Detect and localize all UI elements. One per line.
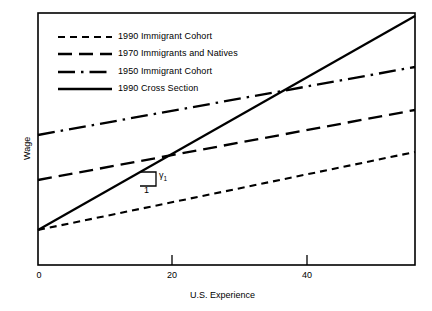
series-line-1990-immigrant-cohort — [38, 152, 415, 230]
slope-triangle-icon — [140, 172, 156, 186]
xtick-label-40: 40 — [299, 270, 315, 280]
slope-rise-label: γ1 — [159, 170, 167, 182]
series-line-1950-immigrant-cohort — [38, 67, 415, 135]
xtick-label-0: 0 — [33, 270, 45, 280]
series-line-1970-immigrants-and-natives — [38, 110, 415, 180]
legend-item-1970-immigrants-and-natives: 1970 Immigrants and Natives — [118, 48, 238, 58]
chart-figure: 1990 Immigrant Cohort 1970 Immigrants an… — [0, 0, 432, 311]
y-axis-title: Wage — [22, 137, 32, 160]
x-axis-title: U.S. Experience — [190, 290, 255, 300]
legend-item-1990-cross-section: 1990 Cross Section — [118, 83, 198, 93]
gamma-subscript: 1 — [164, 175, 168, 182]
slope-run-label: 1 — [144, 185, 149, 195]
xtick-label-20: 20 — [164, 270, 180, 280]
plot-area — [0, 0, 432, 311]
legend-item-1990-immigrant-cohort: 1990 Immigrant Cohort — [118, 31, 212, 41]
legend-item-1950-immigrant-cohort: 1950 Immigrant Cohort — [118, 66, 212, 76]
